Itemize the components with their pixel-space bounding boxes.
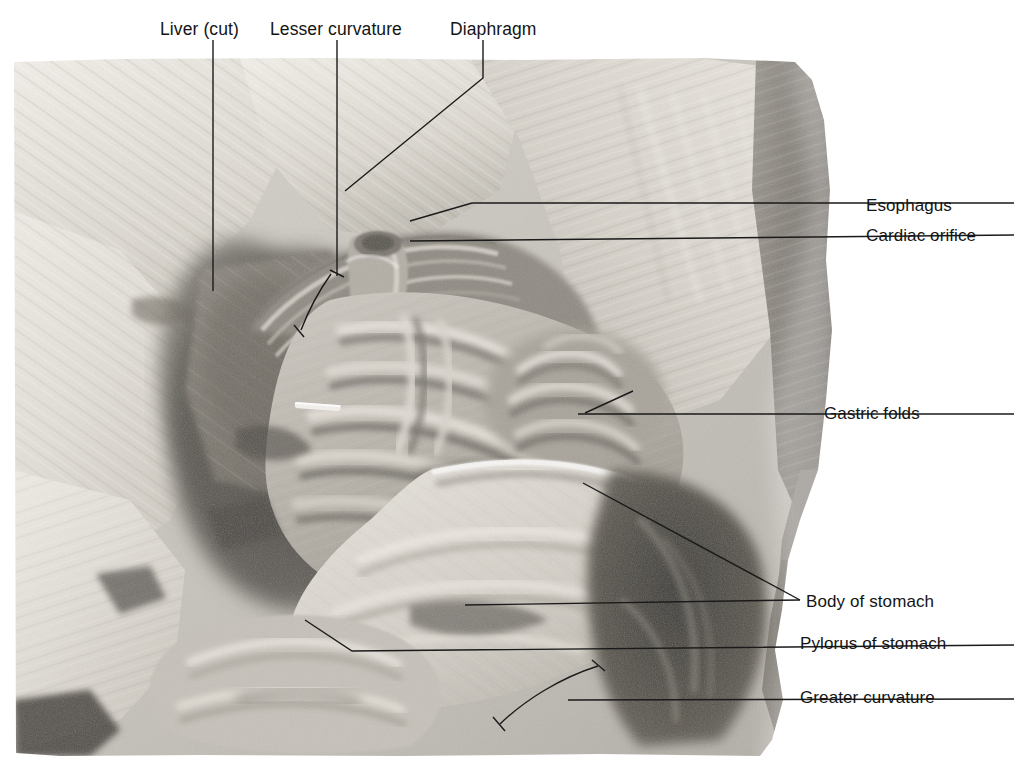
label-liver-cut: Liver (cut): [160, 20, 239, 39]
label-lesser-curvature: Lesser curvature: [270, 20, 402, 39]
figure-root: Liver (cut) Lesser curvature Diaphragm E…: [0, 0, 1014, 767]
label-pylorus-of-stomach: Pylorus of stomach: [800, 634, 946, 653]
label-greater-curvature: Greater curvature: [800, 688, 935, 707]
label-cardiac-orifice: Cardiac orifice: [866, 226, 976, 245]
label-diaphragm: Diaphragm: [450, 20, 537, 39]
label-gastric-folds: Gastric folds: [824, 404, 920, 423]
label-body-of-stomach: Body of stomach: [806, 592, 934, 611]
label-esophagus: Esophagus: [866, 196, 952, 215]
